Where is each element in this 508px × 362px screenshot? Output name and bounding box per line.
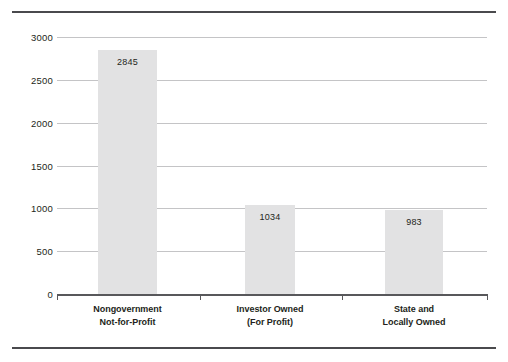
bar-value-label: 2845 xyxy=(98,57,157,67)
x-axis-category-label-line: Investor Owned xyxy=(200,303,340,316)
x-axis-category-label-line: Nongovernment xyxy=(58,303,198,316)
x-axis-category-label-line: (For Profit) xyxy=(200,316,340,329)
bar-value-label: 983 xyxy=(385,217,443,227)
gridline-3000 xyxy=(57,37,487,38)
x-axis-line xyxy=(57,294,487,296)
bar: 983 xyxy=(385,210,443,294)
top-rule xyxy=(12,11,496,13)
x-axis-tick-3 xyxy=(487,294,488,300)
x-axis-category-label: State andLocally Owned xyxy=(344,303,484,328)
x-axis-tick-2 xyxy=(342,294,343,300)
bar-chart-figure: 300025002000150010005000 28451034983 Non… xyxy=(0,0,508,362)
y-axis-tick-label: 2500 xyxy=(9,74,53,85)
y-axis-tick-label: 500 xyxy=(9,246,53,257)
y-axis: 300025002000150010005000 xyxy=(0,0,53,362)
plot-area: 28451034983 xyxy=(57,37,487,294)
bar: 2845 xyxy=(98,50,157,294)
bottom-rule xyxy=(12,347,496,349)
y-axis-tick-label: 1500 xyxy=(9,160,53,171)
x-axis-category-label-line: State and xyxy=(344,303,484,316)
x-axis-tick-1 xyxy=(200,294,201,300)
x-axis-category-label: Investor Owned(For Profit) xyxy=(200,303,340,328)
x-axis-category-label-line: Not-for-Profit xyxy=(58,316,198,329)
y-axis-tick-label: 1000 xyxy=(9,203,53,214)
x-axis-category-label: NongovernmentNot-for-Profit xyxy=(58,303,198,328)
x-axis-tick-0 xyxy=(57,294,58,300)
x-axis-category-label-line: Locally Owned xyxy=(344,316,484,329)
bar: 1034 xyxy=(245,205,295,294)
y-axis-tick-label: 2000 xyxy=(9,117,53,128)
bar-value-label: 1034 xyxy=(245,212,295,222)
y-axis-tick-label: 3000 xyxy=(9,32,53,43)
y-axis-tick-label: 0 xyxy=(9,289,53,300)
